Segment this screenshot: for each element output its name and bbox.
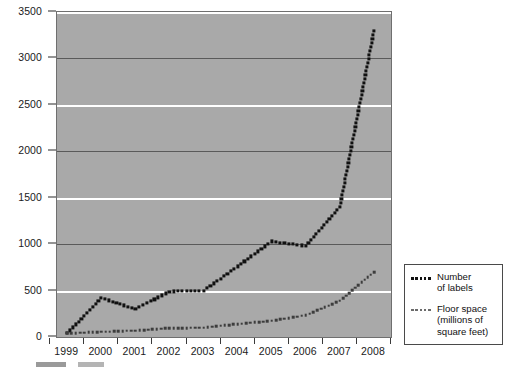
chart-legend: Number of labels Floor space (millions o…	[404, 264, 503, 345]
x-tick-label-2004: 2004	[225, 345, 249, 357]
x-tick-mark-4	[186, 338, 187, 344]
x-tick-mark-3	[151, 338, 152, 344]
legend-label-line-1: Number	[437, 271, 471, 282]
legend-marker-dotted-dark-icon	[411, 272, 433, 284]
y-tick-mark-2000	[48, 150, 56, 151]
y-tick-label-500: 500	[24, 284, 42, 296]
y-tick-mark-0	[48, 336, 56, 337]
y-tick-mark-1500	[48, 196, 56, 197]
y-tick-mark-3000	[48, 57, 56, 58]
y-tick-mark-1000	[48, 243, 56, 244]
chart-container: 0500100015002000250030003500 19992000200…	[0, 0, 511, 367]
caption-swatch-left	[36, 362, 66, 367]
caption-swatch-right	[78, 362, 104, 367]
y-tick-label-3500: 3500	[18, 5, 42, 17]
legend-label-line-2: of labels	[437, 282, 473, 293]
x-tick-label-2003: 2003	[191, 345, 215, 357]
y-tick-mark-500	[48, 289, 56, 290]
x-tick-mark-1	[83, 338, 84, 344]
y-tick-label-2000: 2000	[18, 144, 42, 156]
y-tick-label-3000: 3000	[18, 51, 42, 63]
y-axis: 0500100015002000250030003500	[0, 0, 56, 367]
x-tick-mark-7	[288, 338, 289, 344]
plot-area	[56, 11, 392, 338]
legend-label-line-1: Floor space	[437, 303, 487, 314]
series-2	[57, 12, 391, 337]
caption-strip	[0, 360, 511, 367]
y-tick-mark-2500	[48, 103, 56, 104]
y-tick-label-0: 0	[36, 330, 42, 342]
x-tick-label-2002: 2002	[157, 345, 181, 357]
x-tick-mark-2	[117, 338, 118, 344]
x-tick-label-2001: 2001	[122, 345, 146, 357]
y-tick-label-2500: 2500	[18, 98, 42, 110]
x-tick-mark-end	[390, 338, 391, 344]
x-tick-mark-9	[356, 338, 357, 344]
legend-label-line-2: (millions of	[437, 314, 483, 325]
legend-marker-dotted-gray-icon	[411, 304, 433, 316]
x-tick-label-1999: 1999	[54, 345, 78, 357]
x-tick-label-2007: 2007	[327, 345, 351, 357]
x-tick-label-2005: 2005	[259, 345, 283, 357]
legend-item-floor-space: Floor space (millions of square feet)	[411, 303, 496, 337]
y-tick-label-1000: 1000	[18, 237, 42, 249]
x-tick-label-2006: 2006	[293, 345, 317, 357]
x-tick-label-2008: 2008	[361, 345, 385, 357]
legend-item-number-of-labels: Number of labels	[411, 271, 496, 294]
x-tick-mark-0	[49, 338, 50, 344]
legend-label-floor-space: Floor space (millions of square feet)	[437, 303, 488, 337]
x-tick-mark-8	[322, 338, 323, 344]
x-tick-label-2000: 2000	[88, 345, 112, 357]
x-tick-mark-6	[254, 338, 255, 344]
legend-label-line-3: square feet)	[437, 326, 488, 337]
y-tick-mark-3500	[48, 11, 56, 12]
y-tick-label-1500: 1500	[18, 191, 42, 203]
legend-label-number-of-labels: Number of labels	[437, 271, 473, 294]
x-tick-mark-5	[220, 338, 221, 344]
